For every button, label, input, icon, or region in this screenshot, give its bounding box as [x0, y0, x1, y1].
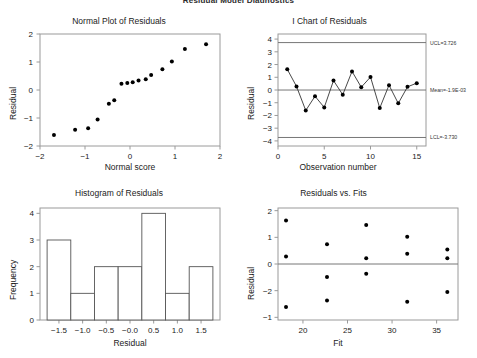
x-tick-label: 1.5	[195, 326, 207, 335]
residual-model-diagnostics-figure: Residual Model Diagnostics Normal Plot o…	[0, 0, 477, 358]
i-chart-xlabel: Observation number	[248, 162, 428, 172]
x-tick-label: 25	[343, 326, 352, 335]
resid-vs-fits-ylabel: Residual	[246, 267, 256, 300]
normal-plot-point	[125, 81, 129, 85]
x-tick-label: 20	[298, 326, 307, 335]
y-tick-label: 3	[30, 236, 35, 245]
resid-vs-fits-point	[325, 275, 329, 279]
histogram-bar	[71, 293, 95, 320]
resid-vs-fits-point	[405, 235, 409, 239]
y-tick-label: −1	[263, 313, 273, 322]
x-tick-label: −1.0	[75, 326, 91, 335]
i-chart-point	[322, 105, 326, 109]
histogram-bar	[94, 267, 118, 320]
histogram-bar	[166, 293, 190, 320]
resid-vs-fits-point	[445, 256, 449, 260]
x-tick-label: 5	[322, 152, 327, 161]
resid-vs-fits-point	[364, 272, 368, 276]
y-tick-label: 2	[29, 30, 34, 39]
i-chart-point	[415, 81, 419, 85]
i-chart-point	[359, 85, 363, 89]
normal-plot-ylabel: Residual	[8, 87, 18, 120]
y-tick-label: 1	[268, 73, 273, 82]
y-tick-label: −3	[263, 124, 273, 133]
i-chart-point	[387, 83, 391, 87]
normal-plot-point	[131, 80, 135, 84]
i-chart-center-label: Mean=-1.9E-03	[430, 87, 466, 93]
i-chart-point	[295, 84, 299, 88]
normal-plot-frame	[40, 34, 220, 146]
i-chart-point	[341, 93, 345, 97]
resid-vs-fits-point	[405, 300, 409, 304]
histogram-title: Histogram of Residuals	[0, 188, 238, 198]
resid-vs-fits-point	[284, 255, 288, 259]
normal-plot-point	[137, 78, 141, 82]
histogram-ylabel: Frequency	[8, 260, 18, 300]
y-tick-label: 4	[268, 35, 273, 44]
histogram-bar	[142, 213, 166, 320]
i-chart-title: I Chart of Residuals	[210, 16, 449, 26]
i-chart-point	[369, 75, 373, 79]
resid-vs-fits-canvas: 20253035210−2−1	[238, 188, 477, 358]
y-tick-label: −1	[24, 114, 34, 123]
i-chart-point	[350, 69, 354, 73]
i-chart-point	[332, 79, 336, 83]
i-chart-point	[378, 106, 382, 110]
y-tick-label: 0	[29, 86, 34, 95]
y-tick-label: 1	[29, 58, 34, 67]
i-chart-point	[285, 67, 289, 71]
y-tick-label: 2	[268, 61, 273, 70]
normal-plot-point	[112, 98, 116, 102]
y-tick-label: 1	[268, 233, 273, 242]
i-chart-canvas: 051015−4−3−2−101234UCL=3.726Mean=-1.9E-0…	[238, 16, 477, 180]
resid-vs-fits-point	[445, 290, 449, 294]
normal-plot-title: Normal Plot of Residuals	[0, 16, 238, 26]
i-chart-lcl-label: LCL=-3.730	[430, 134, 457, 140]
i-chart-point	[406, 85, 410, 89]
y-tick-label: 4	[30, 209, 35, 218]
normal-plot-point	[183, 47, 187, 51]
i-chart-point	[313, 94, 317, 98]
y-tick-label: 0	[268, 260, 273, 269]
normal-plot-canvas: −2−1012−2−1012	[0, 16, 238, 180]
figure-title: Residual Model Diagnostics	[0, 0, 477, 3]
histogram-bar	[189, 267, 213, 320]
x-tick-label: 10	[366, 152, 375, 161]
normal-plot-point	[170, 59, 174, 63]
normal-plot-xlabel: Normal score	[40, 162, 220, 172]
normal-plot-point	[204, 42, 208, 46]
resid-vs-fits-point	[364, 223, 368, 227]
resid-vs-fits-point	[325, 299, 329, 303]
normal-plot-point	[160, 67, 164, 71]
resid-vs-fits-point	[325, 242, 329, 246]
y-tick-label: 0	[268, 86, 273, 95]
resid-vs-fits-point	[284, 305, 288, 309]
y-tick-label: 3	[268, 48, 273, 57]
y-tick-label: 0	[30, 316, 35, 325]
panel-i-chart: I Chart of Residuals 051015−4−3−2−101234…	[238, 16, 477, 180]
x-tick-label: −1	[80, 152, 90, 161]
x-tick-label: 0.5	[148, 326, 160, 335]
normal-plot-point	[107, 102, 111, 106]
panel-normal-plot: Normal Plot of Residuals −2−1012−2−1012 …	[0, 16, 238, 180]
y-tick-label: 1	[30, 289, 35, 298]
resid-vs-fits-xlabel: Fit	[248, 338, 428, 348]
resid-vs-fits-point	[364, 256, 368, 260]
x-tick-label: 0	[276, 152, 281, 161]
y-tick-label: −1	[263, 99, 273, 108]
y-tick-label: −2	[263, 287, 273, 296]
resid-vs-fits-point	[445, 248, 449, 252]
x-tick-label: 30	[388, 326, 397, 335]
x-tick-label: −1.5	[51, 326, 67, 335]
normal-plot-point	[144, 77, 148, 81]
panel-residuals-vs-fits: Residuals vs. Fits 20253035210−2−1 Resid…	[238, 188, 477, 358]
y-tick-label: −2	[263, 111, 273, 120]
x-tick-label: −0.5	[98, 326, 114, 335]
normal-plot-point	[149, 73, 153, 77]
x-tick-label: 1	[173, 152, 178, 161]
histogram-xlabel: Residual	[40, 338, 220, 348]
x-tick-label: 15	[412, 152, 421, 161]
y-tick-label: −2	[24, 142, 34, 151]
i-chart-ucl-label: UCL=3.726	[430, 40, 457, 46]
resid-vs-fits-point	[284, 219, 288, 223]
